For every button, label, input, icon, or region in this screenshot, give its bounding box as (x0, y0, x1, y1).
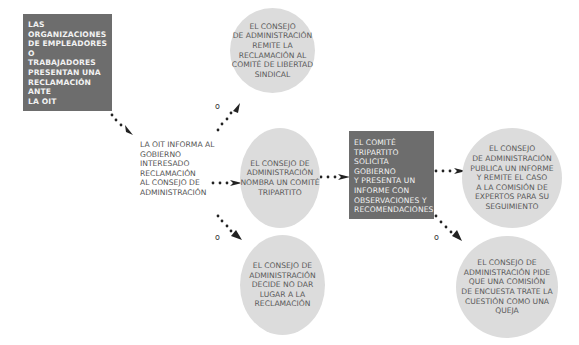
publish-node-text: EL CONSEJO DE ADMINISTRACIÓN PUBLICA UN … (470, 144, 553, 211)
connector-inform-to-reject (217, 215, 242, 240)
start-node-text: LAS ORGANIZACIONES DE EMPLEADORES O TRAB… (28, 20, 107, 106)
or-label-lower: o (215, 233, 220, 242)
or-label-upper: o (215, 102, 220, 111)
inquiry-node-text: EL CONSEJO DE ADMINISTRACIÓN PIDE QUE UN… (461, 258, 552, 316)
publish-node: EL CONSEJO DE ADMINISTRACIÓN PUBLICA UN … (462, 128, 562, 228)
committee-report-node-text: EL COMITÉ TRIPARTITO SOLICITA GOBIERNO Y… (354, 138, 429, 215)
refer-cfa-node-text: EL CONSEJO DE ADMINISTRACIÓN REMITE LA R… (232, 22, 313, 80)
or-label-right: o (434, 233, 439, 242)
reject-node: EL CONSEJO DE ADMINISTRACIÓN DECIDE NO D… (240, 235, 325, 335)
start-node-box: LAS ORGANIZACIONES DE EMPLEADORES O TRAB… (23, 14, 112, 111)
committee-report-node-box: EL COMITÉ TRIPARTITO SOLICITA GOBIERNO Y… (349, 131, 434, 219)
inform-node-text: LA OIT INFORMA AL GOBIERNO INTERESADO RE… (140, 140, 235, 198)
tripartite-node-text: EL CONSEJO DE ADMINISTRACIÓN NOMBRA UN C… (240, 159, 319, 197)
connector-start-to-inform (111, 114, 133, 135)
connector-inform-to-cfa (217, 103, 240, 131)
reject-node-text: EL CONSEJO DE ADMINISTRACIÓN DECIDE NO D… (249, 261, 315, 309)
inquiry-node: EL CONSEJO DE ADMINISTRACIÓN PIDE QUE UN… (456, 236, 558, 338)
refer-cfa-node: EL CONSEJO DE ADMINISTRACIÓN REMITE LA R… (230, 8, 315, 93)
tripartite-node: EL CONSEJO DE ADMINISTRACIÓN NOMBRA UN C… (240, 128, 320, 228)
